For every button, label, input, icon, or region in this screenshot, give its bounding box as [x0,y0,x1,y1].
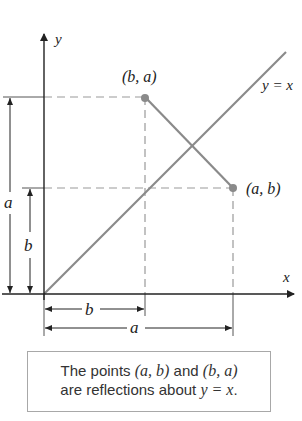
dimension-ticks [3,97,233,336]
point-a-b [229,184,237,192]
caption-text: are reflections about [60,381,200,398]
point-a-b-label: (a, b) [246,180,281,198]
y-axis-label: y [53,31,62,47]
caption-point-a-b: (a, b) [135,362,170,379]
dim-a-vertical-label: a [4,193,13,212]
caption-equation: y = x [200,381,233,398]
caption-text: The points [61,362,135,379]
dim-b-vertical-label: b [24,236,33,255]
line-label: y = x [260,77,293,93]
dim-a-horizontal-label: a [130,318,139,337]
line-y-equals-x [44,52,286,294]
caption-box: The points (a, b) and (b, a) are reflect… [27,351,271,412]
dim-b-horizontal-label: b [85,300,94,319]
point-b-a [141,94,149,102]
x-axis-label: x [282,269,290,285]
caption-text: and [169,362,202,379]
caption-point-b-a: (b, a) [203,362,238,379]
caption-text: . [233,381,237,398]
caption-line-1: The points (a, b) and (b, a) [28,361,270,380]
caption-line-2: are reflections about y = x. [28,380,270,399]
segment-between-points [145,97,233,188]
point-b-a-label: (b, a) [122,68,157,86]
